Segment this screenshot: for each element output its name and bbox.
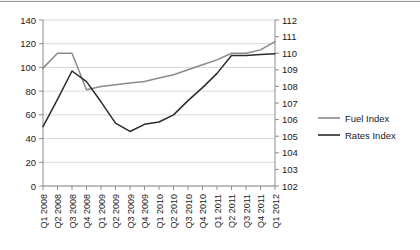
left-axis-tick-label: 80	[25, 86, 36, 97]
right-axis-tick-label: 103	[282, 164, 298, 175]
right-axis-tick-label: 110	[282, 48, 297, 59]
x-axis-tick-label: Q4 2009	[140, 194, 150, 229]
series-line-fuel-index	[43, 42, 275, 90]
x-axis-tick-label: Q4 2008	[82, 194, 92, 229]
right-axis-tick-label: 104	[282, 147, 298, 158]
left-axis-tick-label: 140	[20, 15, 36, 26]
right-axis-tick-label: 107	[282, 98, 298, 109]
x-axis-tick-label: Q1 2010	[155, 194, 165, 229]
legend-label-rates-index: Rates Index	[345, 130, 396, 141]
x-axis-tick-label: Q3 2008	[68, 194, 78, 229]
right-axis-tick-label: 109	[282, 64, 298, 75]
x-axis-tick-label: Q2 2010	[169, 194, 179, 229]
right-axis-tick-label: 102	[282, 181, 298, 192]
left-axis: 020406080100120140	[20, 15, 43, 192]
right-axis-tick-label: 105	[282, 131, 298, 142]
left-axis-tick-label: 40	[25, 133, 36, 144]
x-axis-tick-label: Q1 2009	[97, 194, 107, 229]
x-axis-tick-label: Q1 2011	[213, 194, 223, 228]
chart-canvas: 020406080100120140 102103104105106107108…	[0, 0, 420, 250]
left-axis-tick-label: 120	[20, 38, 36, 49]
x-axis-tick-label: Q3 2011	[242, 194, 252, 228]
series-layer	[43, 42, 275, 132]
x-axis: Q1 2008Q2 2008Q3 2008Q4 2008Q1 2009Q2 20…	[39, 186, 281, 229]
left-axis-tick-label: 20	[25, 157, 36, 168]
x-axis-tick-label: Q4 2010	[198, 194, 208, 229]
x-axis-tick-label: Q3 2009	[126, 194, 136, 229]
right-axis-tick-label: 111	[282, 31, 296, 42]
x-axis-tick-label: Q2 2009	[111, 194, 121, 229]
series-line-rates-index	[43, 54, 275, 132]
right-axis-tick-label: 108	[282, 81, 298, 92]
left-axis-tick-label: 0	[31, 181, 36, 192]
x-axis-tick-label: Q4 2011	[256, 194, 266, 228]
legend-label-fuel-index: Fuel Index	[345, 113, 390, 124]
right-axis-tick-label: 106	[282, 114, 298, 125]
right-axis: 102103104105106107108109110111112	[275, 15, 298, 192]
x-axis-tick-label: Q2 2008	[53, 194, 63, 229]
left-axis-tick-label: 100	[20, 62, 36, 73]
gridlines	[43, 20, 275, 186]
dual-axis-line-chart: 020406080100120140 102103104105106107108…	[0, 0, 420, 250]
x-axis-tick-label: Q1 2012	[271, 194, 281, 229]
x-axis-tick-label: Q1 2008	[39, 194, 49, 229]
x-axis-tick-label: Q3 2010	[184, 194, 194, 229]
x-axis-tick-label: Q2 2011	[227, 194, 237, 228]
left-axis-tick-label: 60	[25, 109, 36, 120]
chart-legend: Fuel IndexRates Index	[318, 113, 396, 141]
right-axis-tick-label: 112	[282, 15, 297, 26]
